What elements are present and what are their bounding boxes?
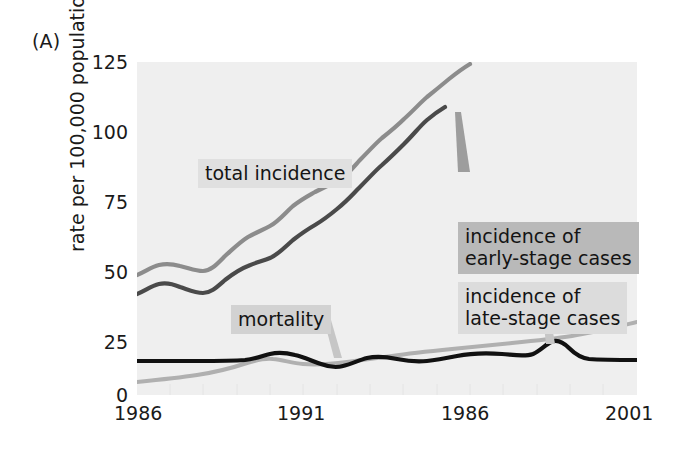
annotation-early-stage: incidence ofearly-stage cases (458, 222, 639, 274)
x-tick-1996: 1986 (441, 404, 489, 423)
series-mortality (137, 341, 637, 367)
annotation-total-incidence: total incidence (198, 159, 352, 188)
y-tick-100: 100 (72, 123, 128, 142)
annotation-early-stage-line2: early-stage cases (465, 247, 632, 269)
figure-panel-a: (A) rate per 100,000 population 125 100 … (0, 0, 685, 449)
baseline-ticks (170, 384, 603, 395)
y-tick-50: 50 (72, 263, 128, 282)
panel-label: (A) (32, 30, 60, 52)
leader-early-stage (455, 112, 470, 172)
annotation-early-stage-line1: incidence of (465, 225, 580, 247)
annotation-late-stage-line1: incidence of (465, 285, 580, 307)
annotation-mortality: mortality (231, 305, 331, 334)
annotation-late-stage: incidence oflate-stage cases (458, 282, 627, 334)
annotation-late-stage-line2: late-stage cases (465, 307, 620, 329)
x-tick-1986-start: 1986 (114, 404, 162, 423)
x-tick-1991: 1991 (277, 404, 325, 423)
y-tick-75: 75 (72, 193, 128, 212)
y-tick-25: 25 (72, 333, 128, 352)
y-tick-125: 125 (72, 53, 128, 72)
x-tick-2001: 2001 (605, 404, 653, 423)
